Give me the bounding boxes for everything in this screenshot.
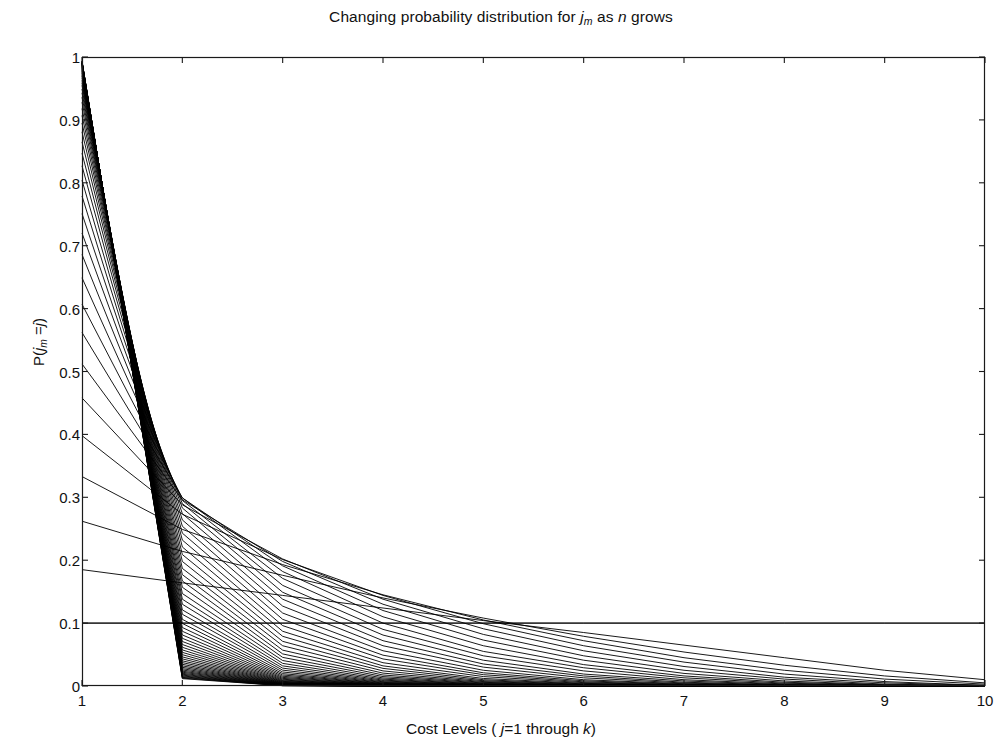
y-tick-label: 0.4 <box>59 426 80 443</box>
series-line <box>82 62 985 686</box>
x-tick-label: 5 <box>479 692 487 709</box>
series-line <box>82 75 985 686</box>
series-line <box>82 89 985 686</box>
y-tick-label: 0 <box>72 678 80 695</box>
xlabel-pre: Cost Levels ( <box>406 720 501 737</box>
series-line <box>82 62 985 686</box>
series-line <box>82 61 985 686</box>
x-tick-label: 10 <box>977 692 994 709</box>
series-line <box>82 73 985 686</box>
series-line <box>82 63 985 686</box>
axes-box <box>83 58 985 686</box>
axes-frame <box>82 57 985 686</box>
series-line <box>82 64 985 686</box>
series-line <box>82 63 985 686</box>
series-line <box>82 102 985 686</box>
series-line <box>82 180 985 686</box>
ylabel-var-j: j <box>30 348 47 351</box>
x-tick-label: 3 <box>278 692 286 709</box>
y-axis-label-wrapper: P(jm =j) <box>30 282 54 402</box>
x-tick-label: 1 <box>78 692 86 709</box>
x-tick-label: 2 <box>178 692 186 709</box>
ylabel-sub-m: m <box>38 339 49 348</box>
y-tick-label: 1 <box>72 49 80 66</box>
series-line <box>82 166 985 686</box>
y-tick-label: 0.1 <box>59 615 80 632</box>
series-line <box>82 61 985 686</box>
figure-canvas: Changing probability distribution for jm… <box>0 0 1002 754</box>
series-line <box>82 233 985 686</box>
series-line <box>82 63 985 686</box>
x-tick-label: 7 <box>680 692 688 709</box>
y-tick-label: 0.8 <box>59 174 80 191</box>
series-line <box>82 116 985 687</box>
y-tick-label: 0.2 <box>59 552 80 569</box>
series-line <box>82 69 985 686</box>
series-line <box>82 304 985 686</box>
series-line <box>82 93 985 686</box>
ylabel-pre: P( <box>30 351 47 366</box>
series-line <box>82 62 985 686</box>
ylabel-var-j2: j <box>30 323 47 326</box>
series-line <box>82 72 985 686</box>
series-line <box>82 66 985 686</box>
series-line <box>82 109 985 686</box>
x-tick-label: 9 <box>880 692 888 709</box>
series-line <box>82 142 985 686</box>
series-line <box>82 214 985 686</box>
y-tick-label: 0.5 <box>59 363 80 380</box>
series-line <box>82 64 985 686</box>
ylabel-post: ) <box>30 318 47 323</box>
series-line <box>82 61 985 686</box>
series-line <box>82 65 985 686</box>
series-line <box>82 68 985 687</box>
ylabel-mid: = <box>30 326 47 339</box>
series-line <box>82 477 985 685</box>
series-line <box>82 64 985 686</box>
series-line <box>82 132 985 686</box>
data-series-group <box>82 61 985 686</box>
series-line <box>82 278 985 686</box>
x-tick-label: 4 <box>379 692 387 709</box>
series-line <box>82 66 985 686</box>
series-line <box>82 65 985 686</box>
xlabel-post: ) <box>591 720 596 737</box>
series-line <box>82 76 985 686</box>
y-tick-label: 0.6 <box>59 300 80 317</box>
y-tick-label: 0.9 <box>59 111 80 128</box>
xlabel-var-k: k <box>583 720 591 737</box>
series-line <box>82 70 985 686</box>
series-line <box>82 67 985 686</box>
x-tick-label: 8 <box>780 692 788 709</box>
xlabel-mid: =1 through <box>504 720 583 737</box>
series-line <box>82 436 985 686</box>
x-tick-label: 6 <box>579 692 587 709</box>
y-tick-label: 0.7 <box>59 237 80 254</box>
series-line <box>82 62 985 686</box>
series-line <box>82 97 985 686</box>
series-line <box>82 61 985 686</box>
series-line <box>82 62 985 686</box>
series-line <box>82 71 985 686</box>
y-axis-label: P(jm =j) <box>30 282 49 402</box>
series-line <box>82 68 985 686</box>
plot-area <box>0 0 1002 754</box>
series-line <box>82 78 985 686</box>
y-tick-label: 0.3 <box>59 489 80 506</box>
series-line <box>82 333 985 686</box>
x-axis-label: Cost Levels ( j=1 through k) <box>0 720 1002 738</box>
series-line <box>82 196 985 686</box>
series-line <box>82 63 985 686</box>
